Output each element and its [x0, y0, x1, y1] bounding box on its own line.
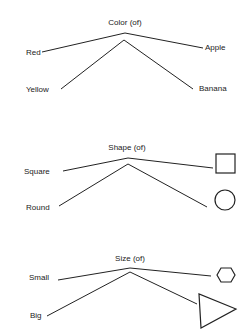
triangle-shape-icon	[199, 294, 236, 328]
size-label-big: Big	[30, 312, 42, 320]
color-diagram-lines	[42, 33, 203, 89]
color-label-banana: Banana	[199, 85, 227, 93]
shape-label-round: Round	[26, 204, 50, 212]
color-label-red: Red	[26, 49, 41, 57]
circle-shape-icon	[215, 190, 235, 210]
size-label-small: Small	[29, 274, 49, 282]
color-label-yellow: Yellow	[26, 86, 49, 94]
shape-diagram-lines	[59, 158, 213, 207]
semantic-relation-diagrams: Color (of) Red Yellow Apple Banana Shape…	[0, 0, 251, 335]
square-shape-icon	[216, 154, 235, 173]
shape-diagram-title: Shape (of)	[108, 144, 145, 152]
shape-label-square: Square	[24, 168, 50, 176]
color-diagram-title: Color (of)	[108, 19, 141, 27]
size-diagram-lines	[47, 268, 211, 316]
hexagon-shape-icon	[217, 268, 235, 282]
size-diagram-title: Size (of)	[115, 255, 145, 263]
color-label-apple: Apple	[205, 44, 225, 52]
